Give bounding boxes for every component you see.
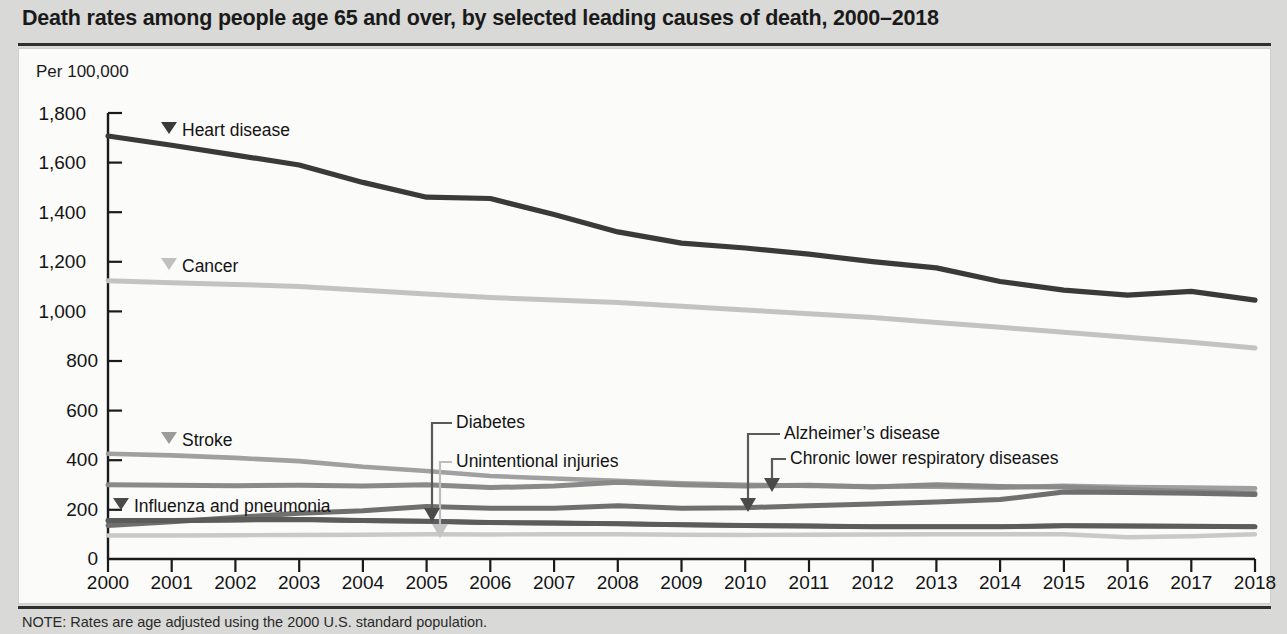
chart-plot [0, 0, 1287, 634]
x-tick-label: 2010 [710, 572, 780, 594]
x-tick-label: 2013 [901, 572, 971, 594]
series-line-heart-disease [108, 136, 1255, 300]
cancer-label: Cancer [182, 256, 238, 277]
unintentional-injuries-label: Unintentional injuries [456, 451, 618, 472]
diabetes-leader [432, 423, 452, 508]
x-tick-label: 2018 [1220, 572, 1287, 594]
chart-note: NOTE: Rates are age adjusted using the 2… [22, 614, 487, 630]
bottom-divider [18, 606, 1271, 609]
heart-disease-label: Heart disease [182, 120, 290, 141]
stroke-label: Stroke [182, 430, 233, 451]
x-tick-label: 2001 [137, 572, 207, 594]
alzheimers-leader [748, 434, 780, 498]
x-tick-label: 2006 [455, 572, 525, 594]
x-tick-label: 2003 [264, 572, 334, 594]
influenza-label: Influenza and pneumonia [134, 496, 331, 517]
x-tick-label: 2008 [583, 572, 653, 594]
x-tick-label: 2009 [647, 572, 717, 594]
x-tick-label: 2014 [965, 572, 1035, 594]
x-tick-label: 2011 [774, 572, 844, 594]
x-tick-label: 2016 [1093, 572, 1163, 594]
influenza-marker [113, 498, 129, 510]
cancer-marker [161, 258, 177, 270]
x-tick-label: 2015 [1029, 572, 1099, 594]
y-tick-marks [108, 113, 122, 510]
series-lines [108, 136, 1255, 537]
x-tick-label: 2017 [1156, 572, 1226, 594]
x-tick-marks [108, 559, 1255, 572]
x-tick-label: 2005 [392, 572, 462, 594]
series-line-influenza-and-pneumonia [108, 519, 1255, 526]
alzheimers-disease-label: Alzheimer’s disease [784, 423, 940, 444]
x-tick-label: 2007 [519, 572, 589, 594]
stroke-marker [161, 432, 177, 444]
x-tick-label: 2004 [328, 572, 398, 594]
series-line-unintentional-injuries [108, 534, 1255, 537]
chart-page: Death rates among people age 65 and over… [0, 0, 1287, 634]
heart-disease-marker [161, 122, 177, 134]
clrd-leader [772, 459, 786, 478]
x-tick-label: 2012 [838, 572, 908, 594]
chronic-lower-respiratory-label: Chronic lower respiratory diseases [790, 448, 1058, 469]
diabetes-label: Diabetes [456, 412, 525, 433]
x-tick-label: 2002 [200, 572, 270, 594]
x-tick-label: 2000 [73, 572, 143, 594]
